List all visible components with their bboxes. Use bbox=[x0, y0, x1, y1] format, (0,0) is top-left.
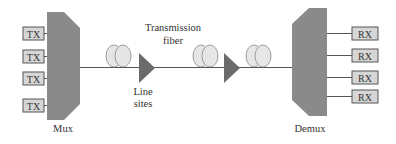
tx-label: TX bbox=[27, 29, 41, 40]
rx-group: RX RX RX RX bbox=[352, 27, 378, 103]
line-sites-label-line2: sites bbox=[134, 98, 153, 109]
tx-box: TX bbox=[23, 50, 44, 63]
rx-box: RX bbox=[352, 27, 378, 40]
tx-label: TX bbox=[27, 101, 41, 112]
tx-label: TX bbox=[27, 52, 41, 63]
rx-box: RX bbox=[352, 49, 378, 62]
wdm-link-diagram: TX TX TX TX Mux Transmission fib bbox=[0, 0, 396, 144]
rx-connectors bbox=[327, 34, 352, 97]
amplifier-triangle-icon bbox=[224, 53, 240, 83]
transmission-fiber-label-line1: Transmission bbox=[145, 22, 202, 33]
tx-label: TX bbox=[27, 74, 41, 85]
mux-label: Mux bbox=[53, 123, 74, 134]
rx-label: RX bbox=[358, 92, 373, 103]
demux-block bbox=[292, 8, 327, 116]
rx-label: RX bbox=[358, 51, 373, 62]
tx-group: TX TX TX TX bbox=[23, 27, 44, 112]
fiber-coil-icon bbox=[193, 45, 218, 67]
amplifier-triangle-icon bbox=[139, 53, 155, 83]
rx-label: RX bbox=[358, 29, 373, 40]
mux-block bbox=[47, 12, 80, 120]
fiber-coil-icon bbox=[106, 45, 131, 67]
transmission-fiber-label-line2: fiber bbox=[163, 35, 183, 46]
demux-label: Demux bbox=[295, 123, 327, 134]
rx-box: RX bbox=[352, 71, 378, 84]
rx-box: RX bbox=[352, 90, 378, 103]
tx-box: TX bbox=[23, 72, 44, 85]
fiber-coil-icon bbox=[246, 45, 271, 67]
rx-label: RX bbox=[358, 73, 373, 84]
line-sites-label-line1: Line bbox=[133, 86, 153, 97]
tx-box: TX bbox=[23, 99, 44, 112]
tx-box: TX bbox=[23, 27, 44, 40]
